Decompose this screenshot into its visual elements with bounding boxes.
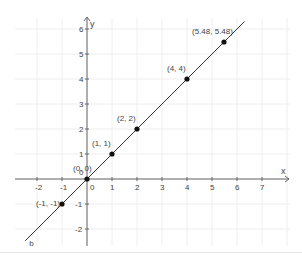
coordinate-plane: xy -2-101234567-2-11234560 b (-1, -1)(0,… xyxy=(0,0,302,260)
x-axis-label: x xyxy=(281,166,286,176)
point-label: (-1, -1) xyxy=(36,199,60,208)
x-tick-label: 0 xyxy=(90,183,95,192)
y-tick-label: -2 xyxy=(75,225,83,234)
line-label: b xyxy=(29,239,34,248)
x-tick-label: 4 xyxy=(185,183,190,192)
x-tick-label: -2 xyxy=(35,183,43,192)
x-tick-label: -1 xyxy=(60,183,68,192)
y-tick-label: 5 xyxy=(79,50,84,59)
point-label: (2, 2) xyxy=(117,114,136,123)
point-marker[interactable] xyxy=(134,126,139,131)
bottom-divider xyxy=(0,252,302,253)
y-axis-label: y xyxy=(90,19,95,29)
y-tick-label: 2 xyxy=(79,125,84,134)
y-tick-label: 1 xyxy=(79,150,84,159)
point-marker[interactable] xyxy=(59,201,64,206)
x-tick-label: 1 xyxy=(110,183,115,192)
point-marker[interactable] xyxy=(84,176,89,181)
x-tick-label: 6 xyxy=(235,183,240,192)
y-tick-label: -1 xyxy=(75,200,83,209)
y-tick-label: 4 xyxy=(79,75,84,84)
x-tick-label: 5 xyxy=(210,183,215,192)
point-marker[interactable] xyxy=(109,151,114,156)
point-label: (0, 0) xyxy=(73,164,92,173)
y-tick-label: 6 xyxy=(79,25,84,34)
y-tick-label: 3 xyxy=(79,100,84,109)
grid xyxy=(15,18,290,246)
point-label: (1, 1) xyxy=(92,139,111,148)
x-tick-label: 7 xyxy=(260,183,265,192)
axes: xy xyxy=(15,17,289,246)
point-label: (4, 4) xyxy=(167,64,186,73)
x-tick-label: 3 xyxy=(160,183,165,192)
point-marker[interactable] xyxy=(221,39,226,44)
x-tick-label: 2 xyxy=(135,183,140,192)
point-label: (5.48, 5.48) xyxy=(192,27,233,36)
point-marker[interactable] xyxy=(184,76,189,81)
